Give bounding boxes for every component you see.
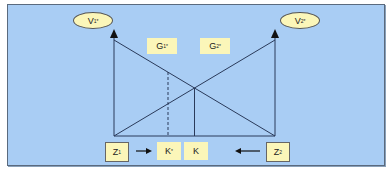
right-arrow-icon bbox=[271, 29, 279, 38]
k-base: K bbox=[193, 146, 199, 156]
v1-base: V bbox=[88, 16, 94, 26]
g2-star-label: G2* bbox=[200, 38, 230, 54]
v1-star-label: V1* bbox=[73, 12, 113, 29]
g1-base: G bbox=[156, 41, 163, 51]
z2-label: Z2 bbox=[266, 142, 290, 162]
left-pointing-arrow-icon bbox=[235, 148, 241, 154]
g2-base: G bbox=[209, 41, 216, 51]
k-label: K bbox=[184, 142, 208, 160]
v2-base: V bbox=[295, 16, 301, 26]
v2-star-label: V2* bbox=[280, 12, 320, 29]
right-pointing-arrow-icon bbox=[146, 148, 152, 154]
k-star-label: K* bbox=[157, 142, 181, 160]
g1-star-label: G1* bbox=[147, 38, 177, 54]
z1-label: Z1 bbox=[105, 142, 129, 162]
left-arrow-icon bbox=[110, 29, 118, 38]
